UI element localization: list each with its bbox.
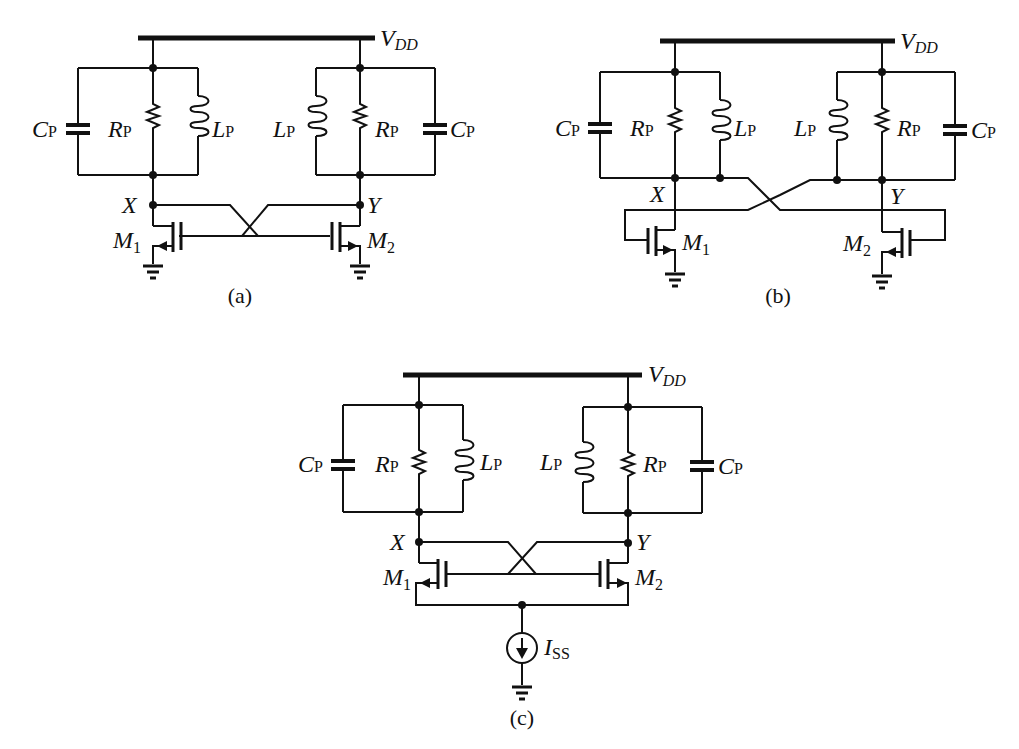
- res-label-right: RP: [896, 115, 921, 141]
- m1-label: M1: [112, 227, 141, 256]
- res-label-left: RP: [374, 451, 399, 477]
- iss-label: ISS: [543, 634, 570, 662]
- cap-label-left: CP: [32, 116, 57, 142]
- ground-icon: [512, 687, 532, 699]
- caption-a: (a): [228, 283, 252, 308]
- ground-icon: [143, 266, 163, 278]
- caption-b: (b): [765, 283, 791, 308]
- node-y-label: Y: [890, 183, 906, 209]
- inductor-icon: [830, 100, 848, 140]
- capacitor-icon: [588, 124, 612, 132]
- circuit-figure: VDD CP RP LP LP RP CP X Y M1 M2 (a): [0, 0, 1019, 749]
- capacitor-icon: [690, 462, 714, 470]
- ground-icon: [665, 274, 685, 286]
- cap-label-right: CP: [450, 116, 475, 142]
- res-label-right: RP: [642, 451, 667, 477]
- node-y-label: Y: [367, 192, 383, 218]
- resistor-icon: [669, 104, 681, 136]
- cap-label-left: CP: [298, 451, 323, 477]
- m1-label: M1: [382, 564, 411, 593]
- panel-c: VDD CP RP LP LP RP CP X Y M1 M2 ISS (c): [298, 361, 743, 730]
- vdd-label: VDD: [648, 361, 686, 389]
- ind-label-right: LP: [272, 116, 295, 142]
- cap-label-right: CP: [718, 453, 743, 479]
- m2-label: M2: [634, 564, 663, 593]
- m2-label: M2: [366, 227, 395, 256]
- ind-label-right: LP: [539, 449, 562, 475]
- resistor-icon: [622, 448, 634, 480]
- inductor-icon: [309, 96, 327, 136]
- m2-label: M2: [842, 230, 871, 259]
- ground-icon: [350, 266, 370, 278]
- m1-label: M1: [681, 229, 710, 258]
- inductor-icon: [576, 442, 594, 482]
- panel-b: VDD CP RP LP LP RP CP X Y M1 M2 (b): [555, 28, 996, 308]
- caption-c: (c): [510, 705, 534, 730]
- capacitor-icon: [66, 125, 90, 133]
- resistor-icon: [147, 100, 159, 132]
- vdd-label: VDD: [380, 25, 418, 53]
- resistor-icon: [413, 446, 425, 478]
- node-x-label: X: [389, 529, 406, 555]
- panel-a: VDD CP RP LP LP RP CP X Y M1 M2 (a): [32, 25, 475, 308]
- ind-label-left: LP: [211, 116, 234, 142]
- resistor-icon: [354, 100, 366, 132]
- inductor-icon: [456, 440, 474, 480]
- node-x-label: X: [121, 192, 138, 218]
- inductor-icon: [191, 96, 209, 136]
- capacitor-icon: [423, 125, 447, 133]
- ind-label-left: LP: [733, 115, 756, 141]
- ground-icon: [872, 276, 892, 288]
- res-label-left: RP: [629, 115, 654, 141]
- cap-label-right: CP: [971, 117, 996, 143]
- capacitor-icon: [331, 461, 355, 469]
- resistor-icon: [876, 104, 888, 136]
- cap-label-left: CP: [555, 115, 580, 141]
- capacitor-icon: [943, 126, 967, 134]
- node-y-label: Y: [636, 529, 652, 555]
- ind-label-right: LP: [793, 115, 816, 141]
- res-label-right: RP: [374, 116, 399, 142]
- res-label-left: RP: [107, 116, 132, 142]
- vdd-label: VDD: [900, 28, 938, 56]
- inductor-icon: [713, 100, 731, 140]
- ind-label-left: LP: [479, 449, 502, 475]
- node-x-label: X: [649, 181, 666, 207]
